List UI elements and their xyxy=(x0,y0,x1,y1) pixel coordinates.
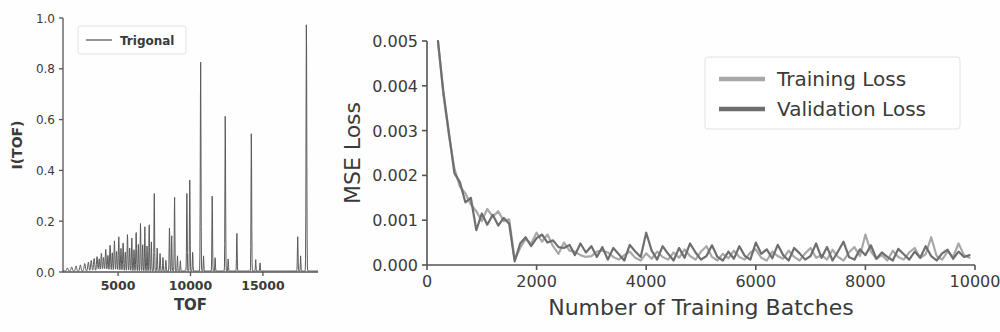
y-tick-label: 0.6 xyxy=(36,113,55,127)
x-axis-label: TOF xyxy=(174,296,207,314)
x-axis-label: Number of Training Batches xyxy=(548,295,854,320)
y-tick-label: 0.003 xyxy=(372,122,418,141)
y-tick-label: 0.2 xyxy=(36,215,55,229)
y-tick-label: 0.004 xyxy=(372,77,418,96)
y-tick-label: 0.002 xyxy=(372,166,418,185)
x-tick-label: 10000 xyxy=(169,278,213,293)
legend-label-validation-loss: Validation Loss xyxy=(777,97,926,121)
training-loss-panel: 0.0000.0010.0020.0030.0040.0050200040006… xyxy=(340,0,1000,332)
y-tick-label: 1.0 xyxy=(36,12,55,26)
x-tick-label: 2000 xyxy=(516,272,557,291)
y-tick-label: 0.001 xyxy=(372,211,418,230)
y-tick-label: 0.8 xyxy=(36,62,55,76)
y-tick-label: 0.005 xyxy=(372,32,418,51)
legend-label-trigonal: Trigonal xyxy=(120,34,175,48)
x-tick-label: 6000 xyxy=(735,272,776,291)
series-trigonal xyxy=(63,25,318,271)
y-axis-label: MSE Loss xyxy=(340,102,365,204)
x-tick-label: 10000 xyxy=(950,272,1000,291)
y-tick-label: 0.000 xyxy=(372,256,418,275)
tof-spectrum-panel: 0.00.20.40.60.81.050001000015000TOFI(TOF… xyxy=(0,0,340,332)
figure-container: 0.00.20.40.60.81.050001000015000TOFI(TOF… xyxy=(0,0,1000,332)
x-tick-label: 15000 xyxy=(241,278,285,293)
training-loss-chart: 0.0000.0010.0020.0030.0040.0050200040006… xyxy=(340,0,1000,332)
y-tick-label: 0.4 xyxy=(36,164,55,178)
y-axis-label: I(TOF) xyxy=(9,120,25,169)
x-tick-label: 0 xyxy=(422,272,432,291)
x-tick-label: 5000 xyxy=(101,278,136,293)
x-tick-label: 8000 xyxy=(845,272,886,291)
y-tick-label: 0.0 xyxy=(36,266,55,280)
legend-label-training-loss: Training Loss xyxy=(776,67,906,91)
tof-spectrum-chart: 0.00.20.40.60.81.050001000015000TOFI(TOF… xyxy=(0,0,340,332)
x-tick-label: 4000 xyxy=(626,272,667,291)
